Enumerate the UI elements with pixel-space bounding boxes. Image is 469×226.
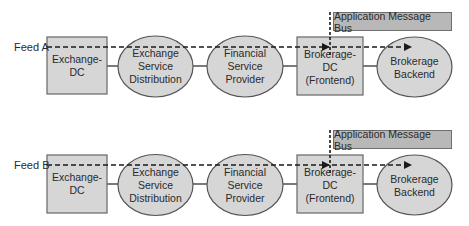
feed-b-label: Feed B <box>14 159 49 171</box>
exchange-service-label-a: Exchange Service Distribution <box>118 44 193 88</box>
exchange-dc-label-a: Exchange-DC <box>47 52 107 80</box>
app-message-bus-b: Application Message Bus <box>333 130 452 149</box>
exchange-service-label-b: Exchange Service Distribution <box>118 163 193 207</box>
brokerage-backend-label-a: Brokerage Backend <box>377 54 452 82</box>
brokerage-backend-label-b: Brokerage Backend <box>377 172 452 200</box>
financial-service-label-a: Financial Service Provider <box>207 44 283 88</box>
exchange-dc-label-b: Exchange-DC <box>47 170 107 198</box>
brokerage-dc-label-a: Brokerage- DC (Frontend) <box>297 50 363 84</box>
feed-a-label: Feed A <box>14 41 49 53</box>
brokerage-dc-label-b: Brokerage- DC (Frontend) <box>297 168 363 202</box>
app-message-bus-a: Application Message Bus <box>333 12 452 31</box>
financial-service-label-b: Financial Service Provider <box>207 163 283 207</box>
